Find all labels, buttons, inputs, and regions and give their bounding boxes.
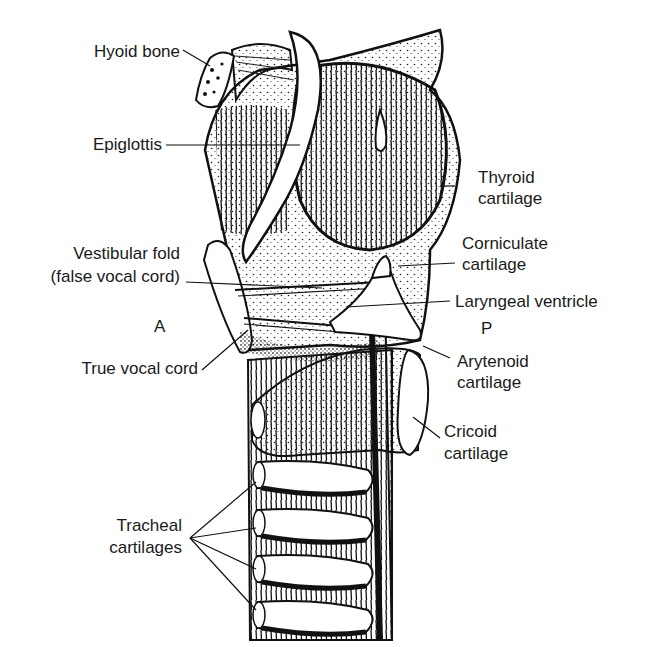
label-tracheal-cartilages-line2: cartilages bbox=[109, 537, 182, 558]
label-anterior: A bbox=[154, 316, 165, 337]
label-posterior: P bbox=[481, 318, 492, 339]
label-vestibular-fold-line1: Vestibular fold bbox=[73, 243, 180, 264]
label-hyoid-bone: Hyoid bone bbox=[94, 41, 180, 62]
label-cricoid-cartilage-line2: cartilage bbox=[444, 443, 508, 464]
label-thyroid-cartilage-line1: Thyroid bbox=[478, 167, 535, 188]
label-cricoid-cartilage-line1: Cricoid bbox=[444, 421, 497, 442]
label-tracheal-cartilages-line1: Tracheal bbox=[116, 515, 182, 536]
label-thyroid-cartilage-line2: cartilage bbox=[478, 188, 542, 209]
larynx-illustration bbox=[0, 0, 646, 647]
label-corniculate-cartilage-line1: Corniculate bbox=[462, 233, 548, 254]
label-epiglottis: Epiglottis bbox=[93, 134, 162, 155]
label-arytenoid-cartilage-line1: Arytenoid bbox=[457, 351, 529, 372]
label-laryngeal-ventricle: Laryngeal ventricle bbox=[455, 291, 598, 312]
label-arytenoid-cartilage-line2: cartilage bbox=[457, 372, 521, 393]
label-vestibular-fold-line2: (false vocal cord) bbox=[51, 266, 180, 287]
label-true-vocal-cord: True vocal cord bbox=[81, 358, 198, 379]
larynx-diagram: Hyoid bone Epiglottis Thyroid cartilage … bbox=[0, 0, 646, 647]
label-corniculate-cartilage-line2: cartilage bbox=[462, 254, 526, 275]
